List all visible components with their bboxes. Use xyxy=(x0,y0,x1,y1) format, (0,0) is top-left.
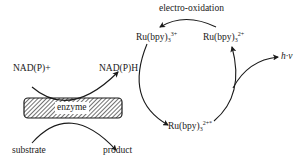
product-label: product xyxy=(103,146,132,156)
substrate-label: substrate xyxy=(12,146,46,156)
emission-label: h·ν xyxy=(281,52,292,62)
ru2-base: Ru(bpy) xyxy=(203,32,235,42)
ru2-label: Ru(bpy)32+ xyxy=(203,31,244,43)
ru2star-sup: 2+* xyxy=(203,120,212,126)
emission-arrow xyxy=(233,57,278,88)
relaxation-arrow xyxy=(214,47,236,121)
ru2-excited-label: Ru(bpy)32+* xyxy=(168,120,212,132)
ru3-base: Ru(bpy) xyxy=(136,32,168,42)
ru2star-sub: 3 xyxy=(200,126,203,132)
ru3-sup: 3+ xyxy=(171,31,177,37)
ru3-label: Ru(bpy)33+ xyxy=(136,31,177,43)
electro-oxidation-label: electro-oxidation xyxy=(159,4,224,14)
nadph-label: NAD(P)H xyxy=(99,64,138,74)
ru2-sub: 3 xyxy=(235,37,238,43)
ru2-sup: 2+ xyxy=(238,31,244,37)
diagram-canvas xyxy=(0,0,306,165)
nadp-plus-label: NAD(P)+ xyxy=(13,64,51,74)
cofactor-arrow xyxy=(32,72,118,100)
electro-oxidation-arrow xyxy=(160,20,216,28)
enzyme-label: enzyme xyxy=(55,102,89,114)
reduction-arrow xyxy=(139,44,168,125)
ru3-sub: 3 xyxy=(168,37,171,43)
ru2star-base: Ru(bpy) xyxy=(168,121,200,131)
